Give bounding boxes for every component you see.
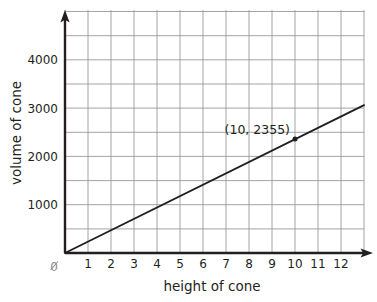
x-tick-label-10: 10 <box>287 257 302 271</box>
x-tick-label-8: 8 <box>245 257 253 271</box>
x-tick-label-12: 12 <box>333 257 348 271</box>
data-point-marker <box>293 137 298 142</box>
chart-container: (10, 2355) 1 2 3 4 5 6 7 8 9 10 11 12 10… <box>0 0 377 302</box>
y-tick-label-1000: 1000 <box>27 198 58 212</box>
x-tick-label-1: 1 <box>84 257 92 271</box>
x-tick-label-11: 11 <box>310 257 325 271</box>
x-axis-title: height of cone <box>163 278 260 294</box>
y-axis-title: volume of cone <box>8 81 24 185</box>
x-tick-label-3: 3 <box>130 257 138 271</box>
origin-zero-text: 0 <box>50 260 58 274</box>
y-tick-label-3000: 3000 <box>27 102 58 116</box>
origin-zero-label: 0 <box>50 260 58 274</box>
x-tick-label-6: 6 <box>199 257 207 271</box>
y-tick-label-2000: 2000 <box>27 150 58 164</box>
cone-volume-line-chart: (10, 2355) 1 2 3 4 5 6 7 8 9 10 11 12 10… <box>0 0 377 302</box>
x-tick-label-5: 5 <box>176 257 184 271</box>
x-tick-label-4: 4 <box>153 257 161 271</box>
x-tick-label-9: 9 <box>268 257 276 271</box>
x-tick-label-2: 2 <box>107 257 115 271</box>
y-tick-label-4000: 4000 <box>27 53 58 67</box>
data-point-annotation-label: (10, 2355) <box>225 122 290 137</box>
x-tick-label-7: 7 <box>222 257 230 271</box>
